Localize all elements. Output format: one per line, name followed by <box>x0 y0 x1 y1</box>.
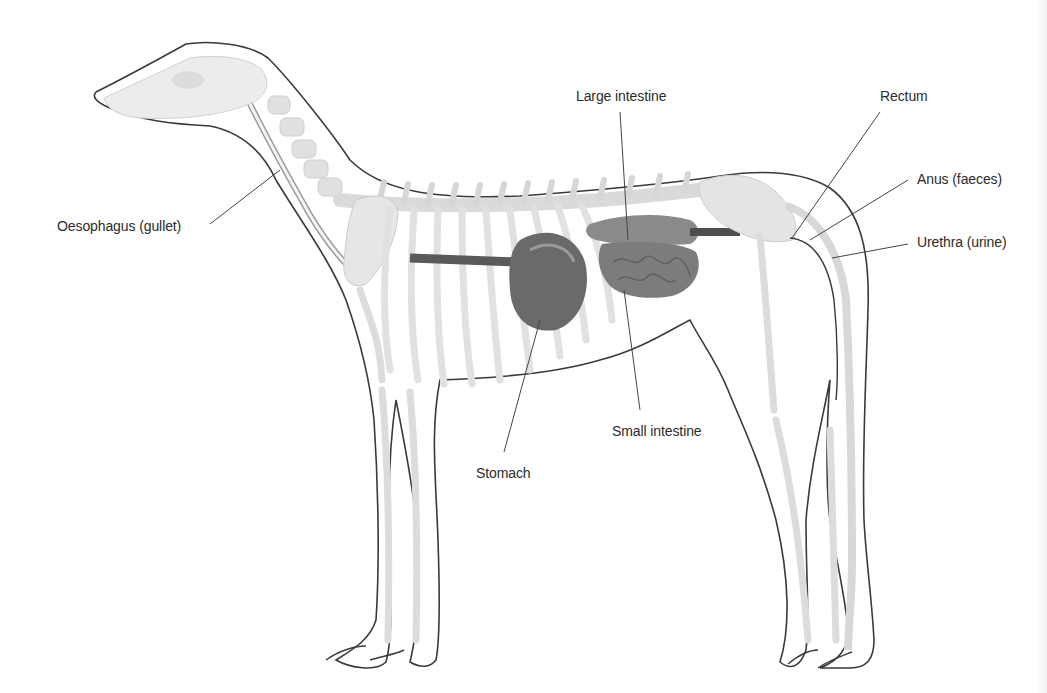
hind-leg-bones <box>760 236 836 640</box>
oesophagus-chest <box>410 258 520 262</box>
label-small-intestine: Small intestine <box>612 423 702 439</box>
label-urethra: Urethra (urine) <box>917 234 1007 250</box>
eye-socket <box>172 71 204 89</box>
label-rectum: Rectum <box>880 88 928 104</box>
small-intestine-organ <box>599 242 699 298</box>
paws <box>326 646 852 668</box>
large-intestine-organ <box>586 215 698 245</box>
urethra-line <box>790 238 837 400</box>
cervical-vertebrae <box>268 96 342 196</box>
label-stomach: Stomach <box>476 465 531 481</box>
stomach-organ <box>509 233 587 331</box>
label-oesophagus: Oesophagus (gullet) <box>57 218 181 234</box>
label-large-intestine: Large intestine <box>576 88 666 104</box>
dog-body-outline <box>94 43 874 668</box>
label-anus: Anus (faeces) <box>917 171 1002 187</box>
